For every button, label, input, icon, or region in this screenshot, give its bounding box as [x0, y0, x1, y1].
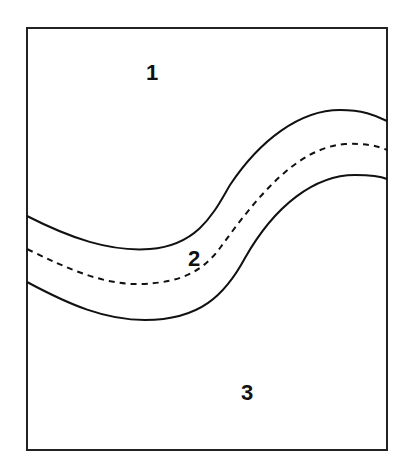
region-2-label: 2: [188, 246, 200, 271]
region-3-label: 3: [241, 380, 253, 405]
diagram-canvas: 1 2 3: [0, 0, 406, 476]
region-1-label: 1: [146, 60, 158, 85]
